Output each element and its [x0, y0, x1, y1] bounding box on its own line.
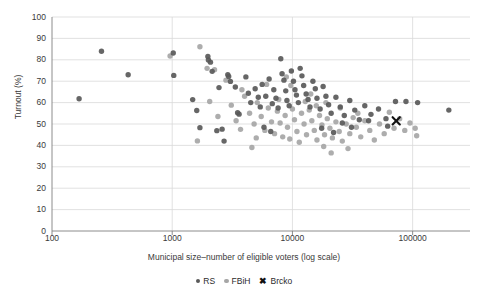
- legend-dot-marker-icon: [224, 279, 229, 284]
- data-point-rs: [366, 118, 371, 123]
- x-tick-label: 1000: [142, 234, 202, 243]
- data-point-fbih: [358, 134, 363, 139]
- data-point-rs: [446, 107, 451, 112]
- data-point-rs: [415, 100, 420, 105]
- data-point-rs: [125, 72, 130, 77]
- data-point-fbih: [195, 138, 200, 143]
- data-point-rs: [281, 77, 286, 82]
- legend-item-label: FBiH: [232, 276, 251, 286]
- data-point-rs: [314, 96, 319, 101]
- data-point-rs: [319, 126, 324, 131]
- data-point-rs: [383, 116, 388, 121]
- data-point-fbih: [249, 145, 254, 150]
- data-point-fbih: [269, 119, 274, 124]
- data-point-fbih: [314, 137, 319, 142]
- data-point-fbih: [280, 134, 285, 139]
- data-point-rs: [292, 87, 297, 92]
- data-point-rs: [263, 93, 268, 98]
- data-point-fbih: [387, 110, 392, 115]
- data-point-rs: [236, 111, 241, 116]
- data-point-rs: [323, 93, 328, 98]
- data-point-fbih: [239, 87, 244, 92]
- data-point-rs: [171, 73, 176, 78]
- legend-item-rs[interactable]: RS: [196, 276, 215, 286]
- data-point-fbih: [301, 121, 306, 126]
- data-point-rs: [243, 74, 248, 79]
- data-point-rs: [226, 74, 231, 79]
- data-point-rs: [270, 101, 275, 106]
- data-point-rs: [393, 99, 398, 104]
- legend-x-marker-icon: ✖: [259, 277, 267, 286]
- data-point-rs: [338, 104, 343, 109]
- data-point-rs: [326, 102, 331, 107]
- data-point-rs: [284, 98, 289, 103]
- data-point-rs: [208, 59, 213, 64]
- data-point-rs: [252, 86, 257, 91]
- chart-legend: RSFBiH✖Brcko: [0, 276, 488, 286]
- data-point-fbih: [204, 66, 209, 71]
- data-point-rs: [171, 50, 176, 55]
- data-point-rs: [347, 98, 352, 103]
- y-tick-label: 70: [20, 77, 46, 86]
- data-point-rs: [278, 56, 283, 61]
- data-point-rs: [297, 66, 302, 71]
- y-tick-label: 100: [20, 13, 46, 22]
- data-point-rs: [320, 84, 325, 89]
- data-point-rs: [216, 85, 221, 90]
- data-point-rs: [310, 79, 315, 84]
- data-point-fbih: [266, 105, 271, 110]
- data-point-fbih: [282, 113, 287, 118]
- series-points-fbih: [167, 44, 419, 156]
- data-point-rs: [261, 125, 266, 130]
- data-point-rs: [317, 106, 322, 111]
- data-point-fbih: [407, 120, 412, 125]
- data-point-fbih: [377, 121, 382, 126]
- data-point-fbih: [333, 119, 338, 124]
- legend-item-brcko[interactable]: ✖Brcko: [259, 276, 292, 286]
- data-point-rs: [289, 68, 294, 73]
- y-tick-label: 60: [20, 98, 46, 107]
- data-point-rs: [349, 125, 354, 130]
- data-point-fbih: [287, 136, 292, 141]
- x-axis-title: Municipal size–number of eligible voters…: [0, 252, 488, 262]
- data-point-fbih: [229, 102, 234, 107]
- data-point-rs: [271, 87, 276, 92]
- data-point-fbih: [330, 135, 335, 140]
- data-point-fbih: [350, 115, 355, 120]
- data-point-rs: [307, 104, 312, 109]
- data-point-rs: [333, 95, 338, 100]
- legend-item-fbih[interactable]: FBiH: [224, 276, 250, 286]
- data-point-fbih: [251, 121, 256, 126]
- data-point-rs: [190, 97, 195, 102]
- data-point-rs: [248, 100, 253, 105]
- data-point-fbih: [277, 120, 282, 125]
- data-point-fbih: [294, 129, 299, 134]
- data-point-rs: [275, 105, 280, 110]
- data-point-rs: [296, 100, 301, 105]
- y-tick-label: 80: [20, 55, 46, 64]
- x-axis-tick-marks: [52, 231, 413, 235]
- data-point-fbih: [391, 126, 396, 131]
- legend-dot-marker-icon: [196, 279, 201, 284]
- data-point-fbih: [325, 116, 330, 121]
- data-point-fbih: [412, 126, 417, 131]
- data-point-fbih: [215, 114, 220, 119]
- data-point-fbih: [317, 113, 322, 118]
- data-point-fbih: [299, 111, 304, 116]
- data-point-fbih: [322, 132, 327, 137]
- data-point-rs: [219, 126, 224, 131]
- data-point-rs: [194, 108, 199, 113]
- data-point-fbih: [247, 111, 252, 116]
- data-point-rs: [266, 76, 271, 81]
- data-point-rs: [299, 73, 304, 78]
- data-point-rs: [340, 120, 345, 125]
- data-point-rs: [259, 82, 264, 87]
- data-point-rs: [221, 138, 226, 143]
- data-point-rs: [331, 130, 336, 135]
- data-point-rs: [283, 88, 288, 93]
- data-point-fbih: [402, 128, 407, 133]
- data-point-rs: [246, 90, 251, 95]
- data-point-rs: [403, 99, 408, 104]
- y-tick-label: 50: [20, 120, 46, 129]
- data-point-rs: [294, 92, 299, 97]
